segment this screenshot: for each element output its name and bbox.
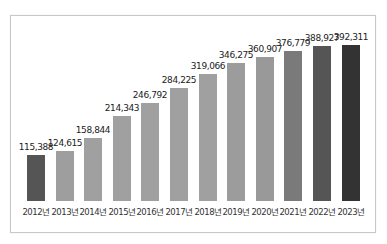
x-tick-label: 2022년 <box>306 205 338 217</box>
value-label: 124,615 <box>40 138 90 148</box>
x-tick-label: 2014년 <box>77 205 109 217</box>
x-tick-label: 2012년 <box>20 205 52 217</box>
bar-2014년 <box>84 138 102 201</box>
bar-2012년 <box>27 155 45 201</box>
value-label: 158,844 <box>68 125 118 135</box>
bar-2021년 <box>284 51 302 201</box>
x-tick-label: 2019년 <box>220 205 252 217</box>
x-tick-label: 2023년 <box>335 205 367 217</box>
bar-2018년 <box>199 74 217 201</box>
x-tick-label: 2021년 <box>277 205 309 217</box>
bar-2016년 <box>141 103 159 201</box>
x-tick-label: 2017년 <box>163 205 195 217</box>
bar-2019년 <box>227 63 245 201</box>
value-label: 284,225 <box>154 75 204 85</box>
x-tick-label: 2016년 <box>134 205 166 217</box>
value-label: 214,343 <box>97 103 147 113</box>
bar-2022년 <box>313 46 331 201</box>
bar-2013년 <box>56 151 74 201</box>
value-label: 246,792 <box>125 90 175 100</box>
value-label: 319,066 <box>183 61 233 71</box>
value-label: 392,311 <box>326 32 376 42</box>
bar-2020년 <box>256 57 274 201</box>
bar-chart: 115,3882012년124,6152013년158,8442014년214,… <box>0 0 387 244</box>
bar-2015년 <box>113 116 131 201</box>
bar-2017년 <box>170 88 188 201</box>
bar-2023년 <box>342 45 360 201</box>
